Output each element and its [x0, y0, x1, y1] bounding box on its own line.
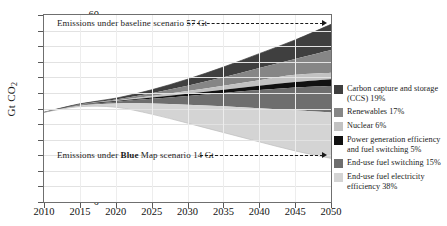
annotation-baseline-text: Emissions under baseline scenario 57 Gt — [57, 18, 207, 28]
x-tick-mark — [259, 203, 260, 208]
legend-item[interactable]: Nuclear 6% — [334, 121, 447, 131]
baseline-dashed-line — [187, 23, 323, 24]
legend-label: Renewables 17% — [347, 107, 404, 117]
legend-item[interactable]: End-use fuel switching 15% — [334, 158, 447, 168]
legend-label: End-use fuel electricity efficiency 38% — [347, 172, 447, 191]
vertical-gridline — [295, 15, 296, 202]
vertical-gridline — [223, 15, 224, 202]
legend-swatch — [334, 136, 343, 145]
x-tick-mark — [116, 203, 117, 208]
x-tick-mark — [80, 203, 81, 208]
emissions-wedge-chart: Gt CO2 051015202530354045505560 20102015… — [0, 0, 447, 226]
blue-map-arrow-icon — [322, 152, 327, 158]
annotation-blue-bold: Blue — [121, 150, 139, 160]
x-tick-mark — [295, 203, 296, 208]
legend-item[interactable]: Renewables 17% — [334, 107, 447, 117]
y-axis-title-subscript: 2 — [10, 82, 19, 86]
annotation-baseline: Emissions under baseline scenario 57 Gt — [57, 18, 207, 28]
legend-item[interactable]: Carbon capture and storage (CCS) 19% — [334, 84, 447, 103]
x-tick-mark — [223, 203, 224, 208]
x-tick-mark — [188, 203, 189, 208]
annotation-blue-prefix: Emissions under — [57, 150, 121, 160]
legend-label: End-use fuel switching 15% — [347, 158, 441, 168]
y-axis-title: Gt CO2 — [5, 64, 19, 134]
legend-swatch — [334, 122, 343, 131]
vertical-gridline — [116, 15, 117, 202]
y-axis-title-text: Gt CO — [5, 86, 17, 117]
vertical-gridline — [80, 15, 81, 202]
legend-swatch — [334, 173, 343, 182]
plot-area — [43, 14, 332, 203]
x-tick-mark — [152, 203, 153, 208]
legend-swatch — [334, 108, 343, 117]
legend-swatch — [334, 85, 343, 94]
legend-label: Power generation efficiency and fuel swi… — [347, 135, 447, 154]
legend-label: Carbon capture and storage (CCS) 19% — [347, 84, 447, 103]
chart-legend: Carbon capture and storage (CCS) 19%Rene… — [334, 84, 447, 196]
vertical-gridline — [259, 15, 260, 202]
vertical-gridline — [188, 15, 189, 202]
baseline-arrow-icon — [322, 20, 327, 26]
x-tick-mark — [331, 203, 332, 208]
annotation-blue-map: Emissions under Blue Map scenario 14 Gt — [57, 150, 214, 160]
legend-item[interactable]: End-use fuel electricity efficiency 38% — [334, 172, 447, 191]
x-tick-mark — [44, 203, 45, 208]
legend-item[interactable]: Power generation efficiency and fuel swi… — [334, 135, 447, 154]
vertical-gridline — [152, 15, 153, 202]
blue-map-dashed-line — [200, 155, 323, 156]
legend-label: Nuclear 6% — [347, 121, 386, 131]
legend-swatch — [334, 159, 343, 168]
